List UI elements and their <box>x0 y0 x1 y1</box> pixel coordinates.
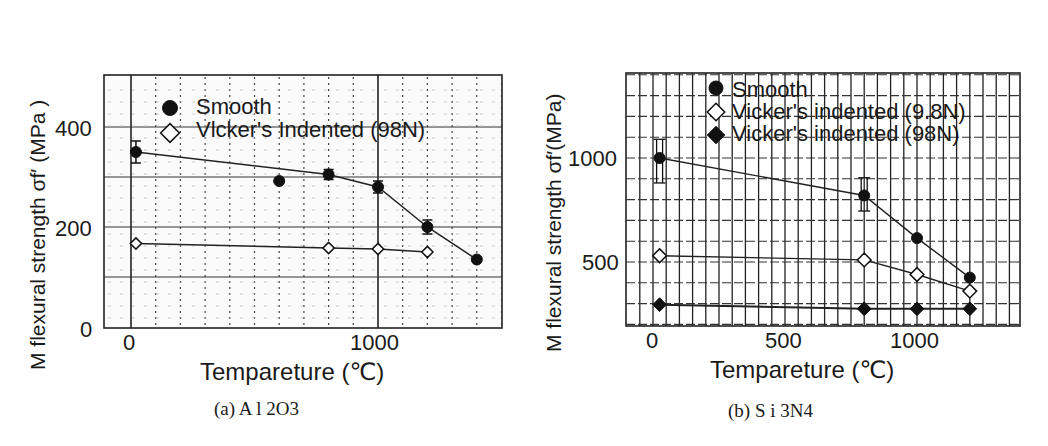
y-tick-200: 200 <box>55 216 92 242</box>
y-axis-label: M flexural strength σf′ (MPa ) <box>26 100 50 370</box>
legend-label-vickers-98n: Vicker's indented (98N) <box>732 123 960 145</box>
x-axis-label: Tempareture (℃) <box>710 356 894 384</box>
legend-label-smooth: Smooth <box>732 79 808 101</box>
x-tick-1000: 1000 <box>890 328 939 354</box>
y-tick-500: 500 <box>582 250 619 276</box>
y-tick-1000: 1000 <box>568 146 617 172</box>
legend-marker-smooth <box>163 101 178 116</box>
x-axis-label: Tempareture (℃) <box>200 358 384 386</box>
data-point-smooth <box>422 222 433 233</box>
data-point-smooth <box>471 254 482 265</box>
x-tick-0: 0 <box>123 330 135 356</box>
y-tick-400: 400 <box>55 116 92 142</box>
data-point-smooth <box>373 182 384 193</box>
x-tick-500: 500 <box>765 328 802 354</box>
data-point-smooth <box>323 169 334 180</box>
plot-frame <box>104 75 502 328</box>
legend-label-smooth: Smooth <box>196 96 272 118</box>
data-point-smooth <box>859 190 870 201</box>
data-point-smooth <box>912 233 923 244</box>
x-tick-1000: 1000 <box>350 330 399 356</box>
data-point-smooth <box>274 176 285 187</box>
data-point-smooth <box>654 153 665 164</box>
chart-panel-si3n4: M flexural strength σf′(MPa) 1000 500 0 … <box>520 0 1048 446</box>
x-tick-0: 0 <box>646 328 658 354</box>
legend-label-vickers-98n: Vlcker's Indented (98N) <box>196 119 425 141</box>
chart-panel-al2o3: M flexural strength σf′ (MPa ) 0 200 400… <box>0 0 520 446</box>
y-tick-0: 0 <box>80 317 92 343</box>
legend-marker-smooth <box>709 81 723 95</box>
figure-caption-b: (b) S i 3N4 <box>728 400 813 422</box>
figure-caption-a: (a) A l 2O3 <box>214 398 299 420</box>
data-point-smooth <box>130 147 141 158</box>
data-point-smooth <box>964 272 975 283</box>
legend-label-vickers-9-8n: Vicker's indented (9.8N) <box>732 101 966 123</box>
y-axis-label: M flexural strength σf′(MPa) <box>542 94 566 352</box>
